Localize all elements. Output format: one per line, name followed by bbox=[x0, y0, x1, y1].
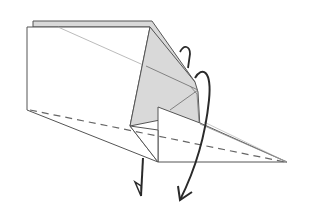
arrowhead-hollow bbox=[135, 182, 141, 196]
diagram-canvas bbox=[0, 0, 313, 219]
origami-diagram bbox=[0, 0, 313, 219]
